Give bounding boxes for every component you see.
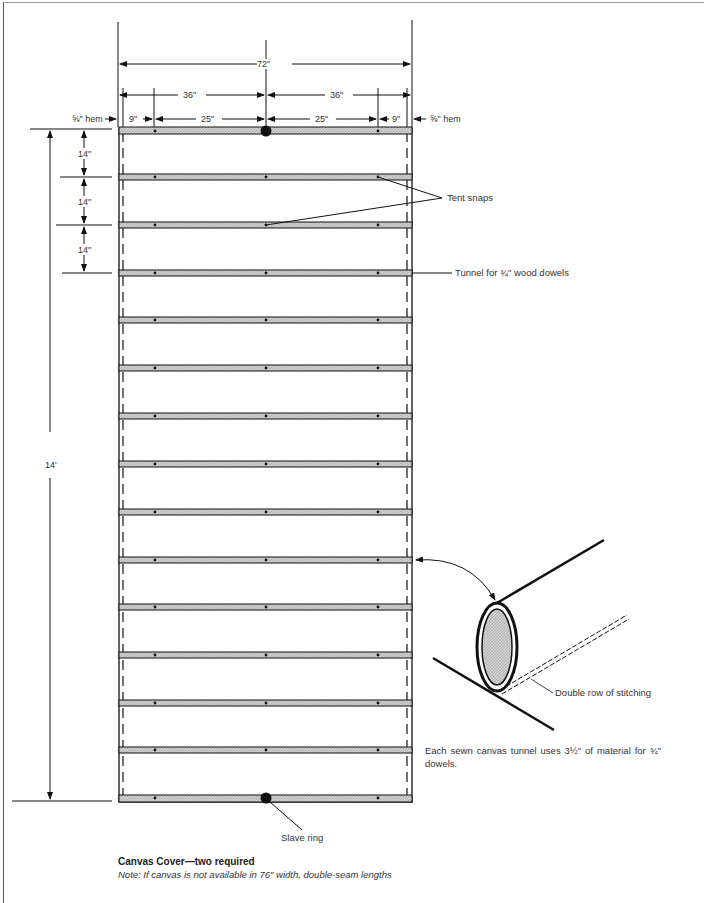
dim-72: 72" <box>257 59 270 69</box>
dim-25-right: 25" <box>315 114 328 124</box>
slave-ring-top <box>261 126 272 137</box>
callout-tent-snaps: Tent snaps <box>447 193 493 203</box>
dim-25-left: 25" <box>201 114 214 124</box>
top-dimensions <box>105 20 426 127</box>
dim-36-left: 36" <box>183 90 196 100</box>
dim-total-length: 14' <box>45 460 57 470</box>
callout-tunnel: Tunnel for ¾" wood dowels <box>455 268 569 278</box>
callout-stitching: Double row of stitching <box>555 688 651 698</box>
dim-spacing-3: 14" <box>78 245 91 255</box>
dim-9-right: 9" <box>392 114 400 124</box>
dim-spacing-2: 14" <box>78 197 91 207</box>
dim-36-right: 36" <box>330 90 343 100</box>
dim-hem-left: ⅝" hem <box>72 114 103 124</box>
dim-spacing-1: 14" <box>78 149 91 159</box>
callout-slave-ring: Slave ring <box>281 833 323 843</box>
dim-hem-right: ⅝" hem <box>430 114 461 124</box>
slave-ring-bottom <box>261 793 272 804</box>
left-dimensions <box>12 129 112 801</box>
caption-title: Canvas Cover—two required <box>118 856 255 867</box>
tunnel-detail <box>433 540 629 730</box>
dim-9-left: 9" <box>129 114 137 124</box>
detail-note: Each sewn canvas tunnel uses 3½" of mate… <box>425 744 661 770</box>
caption-note: Note: If canvas is not available in 76" … <box>118 869 392 880</box>
